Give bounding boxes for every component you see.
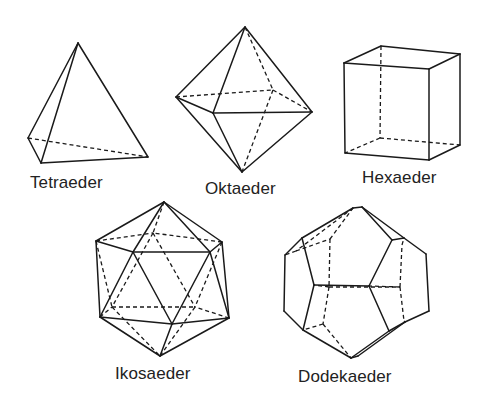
visible-edge bbox=[213, 113, 242, 172]
hidden-edge bbox=[153, 233, 195, 307]
visible-edge bbox=[344, 63, 429, 69]
octahedron-drawing bbox=[176, 27, 312, 172]
hidden-edge bbox=[296, 239, 330, 251]
visible-edge bbox=[392, 238, 404, 240]
hidden-edge bbox=[176, 90, 273, 97]
hidden-edge bbox=[303, 324, 323, 330]
visible-edge bbox=[176, 97, 213, 113]
hexahedron-drawing bbox=[344, 46, 460, 160]
visible-edge bbox=[242, 112, 312, 172]
hidden-edge bbox=[380, 46, 381, 138]
visible-edge bbox=[96, 241, 133, 252]
visible-edge bbox=[176, 97, 242, 172]
hexahedron-label: Hexaeder bbox=[362, 169, 437, 186]
visible-edge bbox=[389, 322, 405, 331]
hidden-edge bbox=[195, 307, 229, 318]
hidden-edge bbox=[380, 138, 460, 145]
visible-edge bbox=[213, 27, 245, 113]
visible-edge bbox=[41, 157, 148, 163]
visible-edge bbox=[213, 112, 312, 113]
visible-edge bbox=[369, 240, 392, 286]
hidden-edge bbox=[329, 239, 330, 287]
visible-edge bbox=[369, 286, 389, 331]
visible-edge bbox=[302, 208, 353, 238]
hidden-edge bbox=[345, 138, 380, 153]
visible-edge bbox=[210, 242, 222, 252]
visible-edge bbox=[429, 145, 460, 160]
visible-edge bbox=[100, 317, 160, 356]
tetrahedron-label: Tetraeder bbox=[30, 174, 103, 191]
hidden-edge bbox=[273, 90, 312, 112]
visible-edge bbox=[245, 27, 312, 112]
visible-edge bbox=[96, 241, 100, 317]
visible-edge bbox=[314, 285, 369, 286]
visible-edge bbox=[28, 138, 41, 163]
octahedron-label: Oktaeder bbox=[205, 180, 276, 197]
visible-edge bbox=[100, 317, 172, 324]
visible-edge bbox=[344, 46, 381, 63]
visible-edge bbox=[358, 322, 405, 356]
visible-edge bbox=[353, 207, 362, 208]
hidden-edge bbox=[323, 324, 351, 358]
dodecahedron-drawing bbox=[284, 207, 429, 358]
visible-edge bbox=[176, 27, 245, 97]
visible-edge bbox=[362, 207, 404, 238]
visible-edge bbox=[284, 311, 303, 330]
visible-edge bbox=[429, 54, 460, 69]
hidden-edge bbox=[323, 287, 329, 324]
dodecahedron-label: Dodekaeder bbox=[298, 368, 392, 385]
visible-edge bbox=[351, 331, 389, 358]
icosahedron-drawing bbox=[96, 202, 229, 356]
visible-edge bbox=[133, 202, 164, 252]
visible-edge bbox=[284, 255, 285, 311]
visible-edge bbox=[303, 330, 351, 358]
hidden-edge bbox=[245, 27, 273, 90]
visible-edge bbox=[164, 202, 210, 252]
platonic-solids-figure bbox=[0, 0, 486, 408]
hidden-edge bbox=[400, 245, 402, 287]
visible-edge bbox=[405, 311, 429, 322]
visible-edge bbox=[345, 153, 429, 160]
visible-edge bbox=[362, 207, 392, 240]
hidden-edge bbox=[112, 233, 153, 307]
visible-edge bbox=[303, 285, 314, 330]
visible-edge bbox=[381, 46, 460, 54]
visible-edge bbox=[78, 43, 148, 157]
hidden-edge bbox=[402, 238, 404, 245]
hidden-edge bbox=[400, 287, 404, 321]
visible-edge bbox=[404, 238, 426, 254]
icosahedron-label: Ikosaeder bbox=[115, 365, 191, 382]
visible-edge bbox=[133, 252, 172, 324]
tetrahedron-drawing bbox=[28, 43, 148, 163]
hidden-edge bbox=[112, 307, 160, 356]
visible-edge bbox=[426, 254, 429, 311]
visible-edge bbox=[344, 63, 345, 153]
hidden-edge bbox=[296, 208, 353, 251]
